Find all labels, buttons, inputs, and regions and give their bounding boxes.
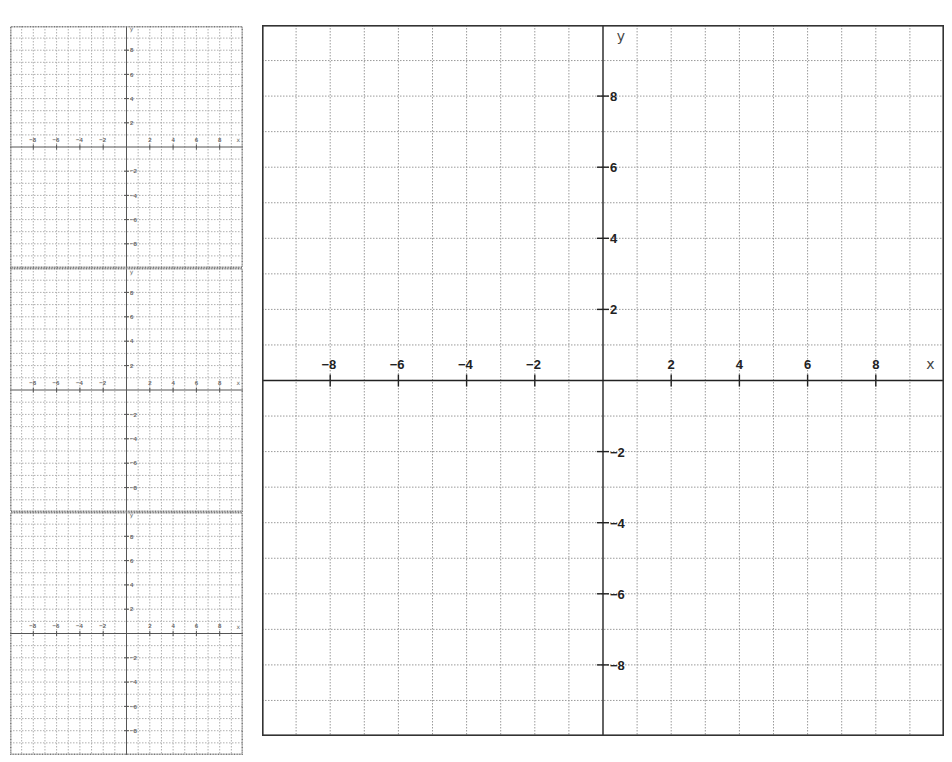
y-tick-label: −4 [130,193,138,199]
x-tick-label: 2 [148,380,152,386]
x-tick-label: −8 [321,357,336,372]
y-tick-label: −8 [130,728,138,734]
y-tick-label: −4 [130,679,138,685]
x-tick-label: −8 [29,380,37,386]
x-tick-label: −6 [390,357,405,372]
x-tick-label: −6 [53,380,61,386]
y-tick-label: −6 [130,460,138,466]
y-tick-label: −2 [130,168,138,174]
small-coordinate-plane-1: −8−6−4−22468−8−6−4−22468xy [10,26,243,268]
small-coordinate-plane-3: −8−6−4−22468−8−6−4−22468xy [10,512,243,755]
x-tick-label: −8 [29,137,37,143]
y-tick-label: −2 [130,655,138,661]
x-tick-label: 8 [218,380,222,386]
y-tick-label: −6 [610,587,625,602]
x-axis-label: x [237,136,241,143]
y-tick-label: −4 [610,516,626,531]
x-tick-label: 2 [148,623,152,629]
coordinate-grid-svg: −8−6−4−22468−8−6−4−22468xy [10,268,243,512]
x-tick-label: 2 [148,137,152,143]
x-tick-label: −6 [53,137,61,143]
y-axis-label: y [617,28,625,44]
x-tick-label: 4 [171,380,175,386]
x-tick-label: 8 [218,137,222,143]
x-tick-label: −2 [526,357,541,372]
coordinate-grid-svg: −8−6−4−22468−8−6−4−22468xy [10,512,243,755]
x-tick-label: −4 [76,623,84,629]
y-tick-label: −6 [130,704,138,710]
x-tick-label: 6 [195,623,199,629]
x-tick-label: −2 [99,380,107,386]
y-tick-label: 2 [610,302,617,317]
y-tick-label: −4 [130,436,138,442]
large-coordinate-plane: −8−6−4−22468−8−6−4−22468xy [262,25,944,736]
small-coordinate-plane-2: −8−6−4−22468−8−6−4−22468xy [10,268,243,512]
x-tick-label: 4 [171,137,175,143]
x-tick-label: 6 [195,137,199,143]
y-tick-label: 8 [610,89,617,104]
y-tick-label: 4 [610,231,618,246]
x-tick-label: 8 [872,357,879,372]
x-axis-label: x [237,623,241,630]
x-tick-label: −2 [99,137,107,143]
x-tick-label: 4 [171,623,175,629]
y-tick-label: 6 [610,160,617,175]
x-axis-label: x [926,356,934,372]
coordinate-grid-svg: −8−6−4−22468−8−6−4−22468xy [262,25,944,736]
x-tick-label: 8 [218,623,222,629]
y-tick-label: −2 [610,445,625,460]
y-tick-label: −2 [130,412,138,418]
x-tick-label: 6 [804,357,811,372]
x-tick-label: −6 [53,623,61,629]
x-tick-label: −4 [76,137,84,143]
y-tick-label: −8 [130,485,138,491]
x-tick-label: −2 [99,623,107,629]
x-tick-label: 2 [668,357,675,372]
y-tick-label: −8 [610,658,625,673]
y-tick-label: −6 [130,217,138,223]
x-tick-label: 6 [195,380,199,386]
x-tick-label: −4 [458,357,474,372]
x-tick-label: −4 [76,380,84,386]
y-tick-label: −8 [130,241,138,247]
x-tick-label: 4 [736,357,744,372]
x-axis-label: x [237,379,241,386]
x-tick-label: −8 [29,623,37,629]
coordinate-grid-svg: −8−6−4−22468−8−6−4−22468xy [10,26,243,268]
